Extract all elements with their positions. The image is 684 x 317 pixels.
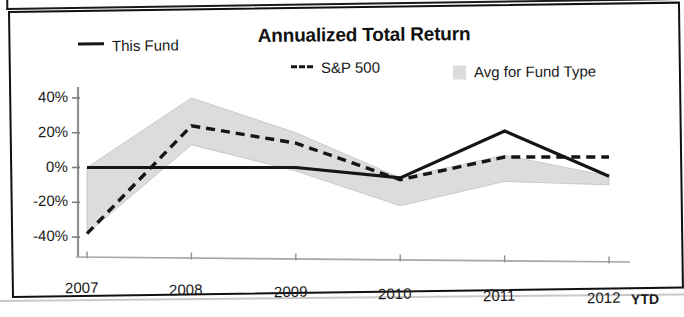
chart-panel: Annualized Total Return This Fund S&P 50…	[8, 2, 684, 298]
legend-label-sp500: S&P 500	[321, 59, 380, 77]
y-axis-tick-label: -20%	[33, 192, 68, 209]
dashed-line-swatch-icon	[291, 65, 313, 68]
x-axis-tick-label: 2010	[378, 285, 412, 302]
x-axis-tick-label: 2009	[274, 283, 308, 300]
y-axis-tick-label: 0%	[46, 157, 68, 174]
series-band-avg-fund-type	[87, 98, 609, 234]
legend-label-avg-fund-type: Avg for Fund Type	[474, 62, 596, 80]
plot-area	[78, 91, 618, 251]
chart-screenshot: Annualized Total Return This Fund S&P 50…	[0, 0, 684, 317]
x-axis-line	[76, 257, 630, 262]
gray-band-swatch-icon	[453, 65, 466, 79]
legend-item-avg-fund-type: Avg for Fund Type	[453, 62, 596, 80]
legend-item-this-fund: This Fund	[78, 36, 179, 54]
y-axis-tick-labels: 40%20%0%-20%-40%	[10, 91, 68, 251]
x-axis-tick-label: 2008	[169, 281, 203, 298]
legend-label-this-fund: This Fund	[112, 36, 179, 54]
x-axis-tick-label: 2012	[587, 289, 621, 306]
x-axis-ytd-label: YTD	[631, 291, 659, 307]
y-axis-tick-label: -40%	[33, 227, 68, 244]
y-axis-tick-label: 20%	[38, 123, 68, 140]
chart-plot-svg	[78, 91, 638, 281]
x-axis-tick-label: 2007	[65, 279, 99, 296]
y-axis-tick-label: 40%	[38, 88, 68, 105]
solid-line-swatch-icon	[78, 42, 104, 45]
chart-title: Annualized Total Return	[224, 23, 504, 47]
legend-item-sp500: S&P 500	[291, 59, 380, 77]
x-axis-tick-label: 2011	[483, 287, 515, 304]
